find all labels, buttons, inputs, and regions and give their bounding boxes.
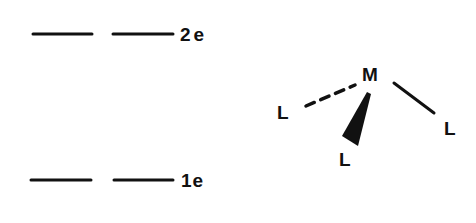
ligand-label-right: L bbox=[444, 118, 456, 139]
wedge-bond bbox=[342, 92, 371, 146]
orbital-diagram: 2e 1e M L L L bbox=[0, 0, 476, 223]
ligand-label-bottom: L bbox=[339, 149, 351, 170]
dashed-bond bbox=[306, 85, 355, 106]
ml3-molecule: M L L L bbox=[277, 64, 456, 170]
level-label-1e: 1e bbox=[181, 170, 204, 191]
level-label-2e: 2e bbox=[180, 24, 207, 45]
energy-level-2e: 2e bbox=[33, 24, 207, 45]
solid-bond bbox=[394, 83, 434, 113]
metal-atom-label: M bbox=[362, 64, 378, 85]
energy-level-1e: 1e bbox=[31, 170, 204, 191]
ligand-label-left: L bbox=[277, 102, 289, 123]
